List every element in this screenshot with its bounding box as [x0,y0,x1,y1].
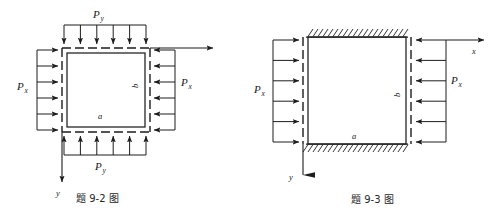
left-load-bottom-label-sub: y [102,166,107,175]
left-axis-y-group: y [55,132,62,198]
left-load-right-label: P [180,76,188,88]
right-dim-bottom-label: a [352,131,356,141]
right-axis-x-label: x [471,46,476,56]
left-dim-right-label: b [130,84,140,88]
right-load-right-group: P x [416,40,463,142]
left-load-left-label-sub: x [24,86,29,95]
left-load-top-group: P y [64,8,146,44]
right-figure-caption: 题 9-3 图 [351,194,394,205]
right-load-left-group: P x [253,40,299,142]
left-load-top-label-sub: y [100,14,105,23]
left-plate-outline [67,53,145,127]
right-figure-group: P x P x x y [253,29,484,205]
left-load-left-group: P x [16,50,58,130]
left-load-right-label-sub: x [188,82,193,91]
right-support-top-hatching [308,29,408,37]
left-figure-caption: 题 9-2 图 [76,193,119,204]
right-load-left-label-sub: x [261,89,266,98]
left-dim-bottom-label: a [98,111,102,121]
right-plate-outline [308,37,406,144]
right-load-right-label-sub: x [458,80,463,89]
right-axis-y-group: y [288,144,303,182]
left-load-top-label: P [92,8,100,20]
left-load-bottom-group: P y [64,136,146,175]
right-axis-y-label: y [288,172,293,182]
right-axis-x-group: x [446,40,484,56]
right-load-left-label: P [253,83,261,95]
left-load-left-label: P [16,80,24,92]
right-support-bottom-group [303,144,408,152]
left-figure-group: P y P y [16,8,213,204]
diagram-canvas: P y P y [0,0,499,223]
figure-root: P y P y [0,0,499,223]
right-support-top-group [306,29,408,37]
right-dim-right-label: b [392,93,402,97]
right-load-right-label: P [450,74,458,86]
left-load-right-group: P x [154,50,193,130]
left-load-bottom-label: P [94,160,102,172]
left-axis-y-label: y [55,188,60,198]
right-support-bottom-hatching [303,145,408,153]
